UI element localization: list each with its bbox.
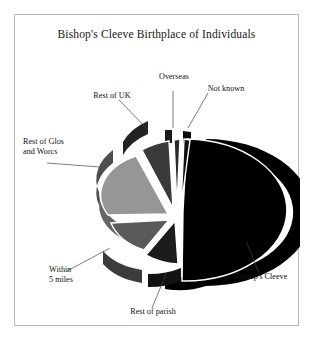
label-not-known: Not known xyxy=(191,84,261,94)
label-rest-of-glos-and-worcs: Rest of Glosand Worcs xyxy=(23,137,101,156)
label-within-5-miles: Within5 miles xyxy=(49,265,109,284)
label-rest-of-glos-and-worcs-line1: Rest of Glos xyxy=(23,137,64,146)
label-within-5-miles-line1: Within xyxy=(49,265,71,274)
leader-line-rest-of-uk xyxy=(119,100,148,130)
label-within-5-miles-line2: 5 miles xyxy=(49,275,73,284)
label-overseas: Overseas xyxy=(139,72,209,82)
label-bishops-cleeve: Bishop's Cleeve xyxy=(225,272,297,282)
slice-overseas[interactable] xyxy=(174,139,180,207)
leader-line-rest-of-glos-and-worcs xyxy=(47,163,100,167)
chart-frame: Bishop's Cleeve Birthplace of Individual… xyxy=(14,14,299,326)
label-rest-of-parish: Rest of parish xyxy=(115,307,191,317)
leader-line-not-known xyxy=(188,93,208,128)
label-rest-of-glos-and-worcs-line2: and Worcs xyxy=(23,147,57,156)
label-rest-of-uk: Rest of UK xyxy=(77,91,147,101)
